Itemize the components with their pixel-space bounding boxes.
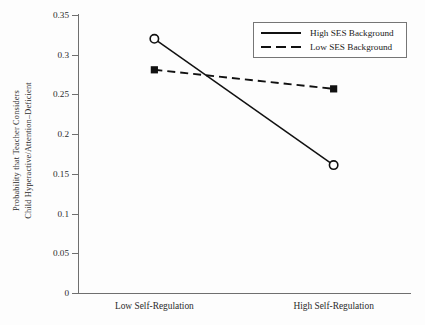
y-axis-tick-mark	[72, 214, 78, 215]
y-axis-tick-mark	[72, 253, 78, 254]
interaction-line-chart: Probability that Teacher Considers Child…	[0, 0, 425, 325]
data-point-marker-open-circle	[329, 161, 337, 169]
data-point-marker-filled-square	[151, 66, 158, 73]
y-axis-tick-mark	[72, 134, 78, 135]
y-axis-tick-mark	[72, 174, 78, 175]
legend-entry-low-ses: Low SES Background	[254, 40, 406, 54]
legend-entry-high-ses: High SES Background	[254, 26, 406, 40]
legend-label-low-ses: Low SES Background	[310, 42, 392, 52]
series-line-filled-square	[154, 70, 333, 89]
legend-line-sample-dashed	[261, 42, 301, 52]
chart-legend: High SES Background Low SES Background	[253, 22, 407, 58]
y-axis-tick-mark	[72, 15, 78, 16]
y-axis-tick-mark	[72, 94, 78, 95]
x-axis-category-label: High Self-Regulation	[293, 301, 373, 311]
data-point-marker-filled-square	[330, 85, 337, 92]
legend-label-high-ses: High SES Background	[310, 28, 394, 38]
data-point-marker-open-circle	[150, 35, 158, 43]
x-axis-category-label: Low Self-Regulation	[115, 301, 194, 311]
y-axis-tick-mark	[72, 55, 78, 56]
legend-line-sample-solid	[261, 28, 301, 38]
y-axis-tick-mark	[72, 293, 78, 294]
